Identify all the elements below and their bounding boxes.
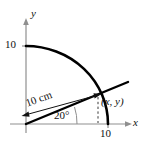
y-axis-arrowhead	[23, 18, 29, 25]
y-axis-label: y	[31, 8, 36, 19]
angle-arc-20deg	[75, 107, 78, 124]
x-axis-label: x	[133, 117, 138, 128]
angle-measure-label: 20°	[54, 110, 69, 121]
y-axis-tick-label-10: 10	[5, 39, 16, 50]
figure-canvas: y x 10 10 (x, y) 20° 10 cm	[0, 0, 149, 147]
x-axis-arrowhead	[125, 121, 132, 127]
x-axis-tick-label-10: 10	[100, 128, 111, 139]
point-coordinate-label: (x, y)	[101, 96, 124, 107]
diagram-svg	[0, 0, 149, 147]
